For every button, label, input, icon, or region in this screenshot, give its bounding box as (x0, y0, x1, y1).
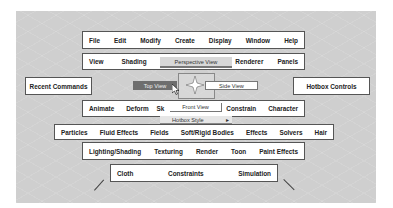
marking-west-top-view[interactable]: Top View (133, 81, 177, 90)
marking-north-perspective-view[interactable]: Perspective View (160, 57, 232, 68)
menu-character[interactable]: Character (268, 105, 298, 112)
menu-skeleton[interactable]: Sk (157, 105, 165, 112)
menu-deform[interactable]: Deform (126, 105, 148, 112)
menu-file[interactable]: File (89, 37, 100, 44)
marking-east-side-view[interactable]: Side View (205, 81, 258, 90)
rendering-menu-row: Lighting/Shading Texturing Render Toon P… (82, 142, 305, 160)
menu-render[interactable]: Render (196, 148, 218, 155)
recent-commands-button[interactable]: Recent Commands (25, 77, 92, 95)
menu-animate[interactable]: Animate (89, 105, 114, 112)
menu-window[interactable]: Window (246, 37, 270, 44)
menu-view[interactable]: View (89, 58, 103, 65)
menu-constraints[interactable]: Constraints (168, 170, 204, 177)
menu-display[interactable]: Display (209, 37, 232, 44)
menu-panels[interactable]: Panels (277, 58, 298, 65)
menu-fluid-effects[interactable]: Fluid Effects (100, 129, 138, 136)
menu-effects[interactable]: Effects (246, 129, 267, 136)
menu-hair[interactable]: Hair (315, 129, 327, 136)
menu-create[interactable]: Create (175, 37, 195, 44)
hotbox-controls-button[interactable]: Hotbox Controls (293, 77, 370, 95)
menu-lighting-shading[interactable]: Lighting/Shading (89, 148, 141, 155)
menu-toon[interactable]: Toon (231, 148, 246, 155)
menu-simulation[interactable]: Simulation (238, 170, 271, 177)
menu-paint-effects[interactable]: Paint Effects (259, 148, 298, 155)
marking-south-front-view[interactable]: Front View (170, 103, 222, 112)
menu-shading[interactable]: Shading (121, 58, 146, 65)
menu-cloth[interactable]: Cloth (117, 170, 133, 177)
menu-solvers[interactable]: Solvers (279, 129, 302, 136)
center-star-icon (186, 76, 204, 94)
mouse-cursor-icon (172, 84, 180, 95)
menu-texturing[interactable]: Texturing (154, 148, 183, 155)
menu-particles[interactable]: Particles (61, 129, 88, 136)
menu-soft-rigid-bodies[interactable]: Soft/Rigid Bodies (181, 129, 234, 136)
menu-help[interactable]: Help (284, 37, 298, 44)
menu-renderer[interactable]: Renderer (235, 58, 263, 65)
submenu-arrow-icon: ▸ (226, 117, 229, 123)
cloth-menu-row: Cloth Constraints Simulation (110, 164, 278, 182)
dynamics-menu-row: Particles Fluid Effects Fields Soft/Rigi… (54, 124, 334, 140)
menu-edit[interactable]: Edit (114, 37, 126, 44)
menu-constrain[interactable]: Constrain (226, 105, 256, 112)
menu-fields[interactable]: Fields (150, 129, 168, 136)
marking-hotbox-style[interactable]: Hotbox Style ▸ (160, 116, 232, 124)
menu-modify[interactable]: Modify (140, 37, 161, 44)
main-menu-row: File Edit Modify Create Display Window H… (82, 31, 305, 49)
